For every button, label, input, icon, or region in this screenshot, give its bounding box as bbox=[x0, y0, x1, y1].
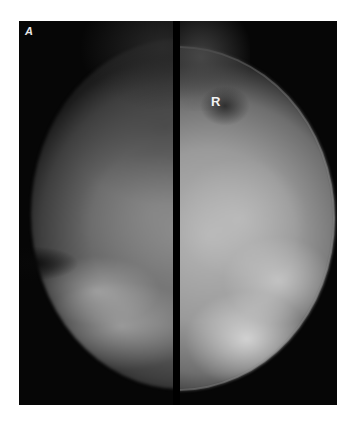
left-breast-view: A bbox=[19, 21, 173, 405]
right-fat-pocket bbox=[200, 86, 250, 126]
right-breast-view: R bbox=[180, 21, 337, 405]
left-skin-notch bbox=[19, 246, 79, 281]
side-marker-right: R bbox=[211, 95, 220, 108]
left-upper-shadow bbox=[79, 21, 173, 111]
view-divider bbox=[173, 21, 180, 405]
panel-label: A bbox=[25, 26, 33, 37]
mammogram-figure: A R bbox=[19, 21, 337, 405]
